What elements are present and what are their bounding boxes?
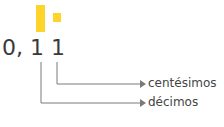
tenths-label: décimos (148, 95, 198, 109)
arrow-right-icon (140, 99, 146, 107)
hundredths-label: centésimos (148, 76, 217, 90)
arrow-right-icon (140, 80, 146, 88)
